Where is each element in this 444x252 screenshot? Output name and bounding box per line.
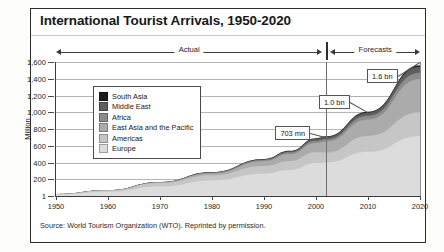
y-axis-tick-label: 1,400 <box>27 74 46 83</box>
y-axis-tick <box>48 196 54 197</box>
legend-item[interactable]: South Asia <box>99 91 193 102</box>
actual-label: Actual <box>175 45 204 54</box>
x-axis-tick-label: 2020 <box>412 202 428 211</box>
y-axis-tick <box>48 146 54 147</box>
legend-item-label: South Asia <box>112 92 147 101</box>
legend-swatch-icon <box>99 102 108 111</box>
y-axis-tick <box>48 163 54 164</box>
legend-swatch-icon <box>99 134 108 143</box>
y-axis-tick <box>48 79 54 80</box>
y-axis-title: Million <box>23 118 32 140</box>
legend-item[interactable]: East Asia and the Pacific <box>99 123 193 134</box>
legend-item-label: Middle East <box>112 102 151 111</box>
page-title: International Tourist Arrivals, 1950-202… <box>40 13 291 28</box>
x-axis-tick-label: 1990 <box>256 202 272 211</box>
x-axis-tick <box>108 196 109 200</box>
x-axis-tick <box>420 196 421 200</box>
x-axis-tick <box>368 196 369 200</box>
legend-item[interactable]: Americas <box>99 133 193 144</box>
callout-1-0bn: 1.0 bn <box>319 95 350 109</box>
y-axis-tick-label: 200 <box>33 175 46 184</box>
forecast-divider-line <box>326 62 327 196</box>
legend-swatch-icon <box>99 113 108 122</box>
x-axis-tick <box>264 196 265 200</box>
x-axis-tick-label: 1970 <box>152 202 168 211</box>
forecast-right-arrow-icon <box>415 49 420 55</box>
x-axis-tick-label: 1950 <box>48 202 64 211</box>
plot-right-edge <box>420 62 421 197</box>
y-axis-tick <box>48 62 54 63</box>
legend-item[interactable]: Middle East <box>99 102 193 113</box>
legend-swatch-icon <box>99 92 108 101</box>
x-axis-tick <box>212 196 213 200</box>
x-axis-tick <box>160 196 161 200</box>
y-axis-tick-label: 600 <box>33 141 46 150</box>
title-divider <box>31 35 425 36</box>
x-axis-tick-label: 1960 <box>100 202 116 211</box>
y-axis-tick-label: 800 <box>33 125 46 134</box>
legend-item-label: Africa <box>112 113 131 122</box>
callout-1-6bn: 1.6 bn <box>367 69 398 83</box>
x-axis-tick <box>56 196 57 200</box>
actual-period-band: Actual <box>56 44 322 58</box>
y-axis-tick-label: 1,600 <box>27 58 46 67</box>
y-axis-tick-label: 1,200 <box>27 91 46 100</box>
y-axis-tick <box>48 96 54 97</box>
forecast-label: Forecasts <box>355 45 396 54</box>
forecast-period-band: Forecasts <box>330 44 420 58</box>
legend-item-label: Europe <box>112 144 136 153</box>
source-note: Source: World Tourism Organization (WTO)… <box>40 221 265 230</box>
x-axis-tick <box>316 196 317 200</box>
x-axis-line <box>55 196 421 197</box>
legend-swatch-icon <box>99 123 108 132</box>
y-axis-tick <box>48 112 54 113</box>
x-axis-tick-label: 2010 <box>360 202 376 211</box>
y-axis-tick-label: 400 <box>33 158 46 167</box>
period-band-row: Actual Forecasts <box>56 44 420 58</box>
chart-legend: South AsiaMiddle EastAfricaEast Asia and… <box>93 86 201 159</box>
chart-figure: International Tourist Arrivals, 1950-202… <box>0 0 444 252</box>
y-axis-tick-label: 1,000 <box>27 108 46 117</box>
legend-item[interactable]: Africa <box>99 112 193 123</box>
y-axis-tick <box>48 179 54 180</box>
y-axis-tick-label: 1 <box>42 191 46 200</box>
callout-703mn: 703 mn <box>275 126 310 140</box>
actual-right-arrow-icon <box>317 49 322 55</box>
legend-item[interactable]: Europe <box>99 144 193 155</box>
x-axis-tick-label: 2000 <box>308 202 324 211</box>
legend-item-label: East Asia and the Pacific <box>112 123 193 132</box>
legend-swatch-icon <box>99 144 108 153</box>
x-axis-tick-label: 1980 <box>204 202 220 211</box>
forecast-divider-top <box>326 42 327 60</box>
y-axis-tick <box>48 129 54 130</box>
legend-item-label: Americas <box>112 134 143 143</box>
